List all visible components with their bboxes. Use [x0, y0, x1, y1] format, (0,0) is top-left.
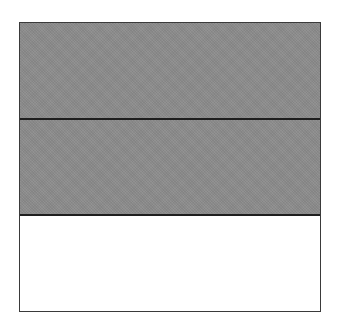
shaded-part-1 — [20, 23, 320, 118]
shaded-part-2 — [20, 118, 320, 215]
unshaded-part-3 — [20, 214, 320, 311]
fraction-model-square — [19, 22, 321, 312]
